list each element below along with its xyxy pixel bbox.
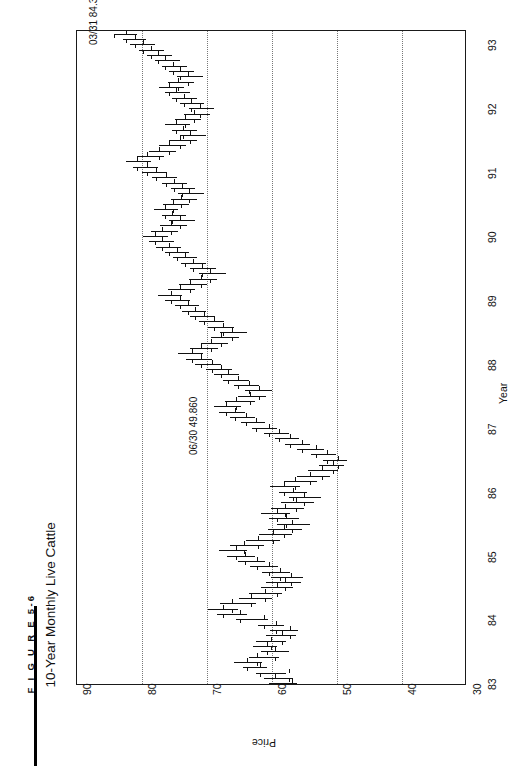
ohlc-bar xyxy=(190,348,218,349)
ohlc-open-tick xyxy=(182,184,183,188)
ohlc-open-tick xyxy=(176,120,177,124)
ohlc-close-tick xyxy=(289,678,290,682)
ohlc-open-tick xyxy=(188,301,189,305)
ohlc-close-tick xyxy=(162,236,163,240)
price-axis-label: Price xyxy=(252,737,276,749)
ohlc-close-tick xyxy=(188,82,189,86)
ohlc-close-tick xyxy=(200,114,201,118)
ohlc-bar xyxy=(175,305,200,306)
ohlc-open-tick xyxy=(251,594,252,598)
ohlc-bar xyxy=(227,556,256,557)
ohlc-bar xyxy=(189,279,218,280)
ohlc-open-tick xyxy=(226,402,227,406)
ohlc-open-tick xyxy=(180,136,181,140)
ohlc-close-tick xyxy=(178,87,179,91)
ohlc-open-tick xyxy=(204,312,205,316)
ohlc-open-tick xyxy=(189,189,190,193)
ohlc-open-tick xyxy=(135,35,136,39)
ohlc-bar xyxy=(154,209,179,210)
ohlc-open-tick xyxy=(228,370,229,374)
ohlc-bar xyxy=(165,300,190,301)
ohlc-bar xyxy=(262,572,290,573)
ohlc-close-tick xyxy=(210,279,211,283)
ohlc-close-tick xyxy=(277,518,278,522)
ohlc-bar xyxy=(178,353,203,354)
ohlc-bar xyxy=(217,614,247,615)
ohlc-bar xyxy=(199,273,226,274)
ohlc-close-tick xyxy=(204,321,205,325)
ohlc-open-tick xyxy=(143,40,144,44)
ohlc-open-tick xyxy=(232,599,233,603)
ohlc-close-tick xyxy=(158,60,159,64)
ohlc-bar xyxy=(270,630,298,631)
ohlc-open-tick xyxy=(201,344,202,348)
ohlc-bar xyxy=(250,566,278,567)
ohlc-close-tick xyxy=(151,55,152,59)
price-tick-80: 80 xyxy=(146,683,158,695)
ohlc-close-tick xyxy=(282,641,283,645)
ohlc-bar xyxy=(219,412,246,413)
ohlc-close-tick xyxy=(169,151,170,155)
ohlc-open-tick xyxy=(147,152,148,156)
ohlc-close-tick xyxy=(174,188,175,192)
ohlc-bar xyxy=(149,151,176,152)
ohlc-close-tick xyxy=(291,582,292,586)
ohlc-close-tick xyxy=(333,470,334,474)
ohlc-bar xyxy=(163,204,189,205)
ohlc-close-tick xyxy=(249,390,250,394)
ohlc-bar xyxy=(277,524,311,525)
ohlc-close-tick xyxy=(201,364,202,368)
ohlc-bar xyxy=(214,374,239,375)
ohlc-close-tick xyxy=(284,534,285,538)
ohlc-close-tick xyxy=(295,486,296,490)
ohlc-open-tick xyxy=(264,615,265,619)
ohlc-close-tick xyxy=(185,263,186,267)
gridline-price-80 xyxy=(142,31,143,684)
ohlc-close-tick xyxy=(189,199,190,203)
ohlc-bar xyxy=(261,587,293,588)
ohlc-close-tick xyxy=(147,161,148,165)
ohlc-close-tick xyxy=(257,662,258,666)
ohlc-close-tick xyxy=(169,252,170,256)
ohlc-bar xyxy=(186,359,211,360)
ohlc-close-tick xyxy=(143,50,144,54)
ohlc-bar xyxy=(264,433,289,434)
ohlc-open-tick xyxy=(183,126,184,130)
ohlc-open-tick xyxy=(271,637,272,641)
ohlc-bar xyxy=(165,124,190,125)
ohlc-open-tick xyxy=(174,179,175,183)
ohlc-close-tick xyxy=(240,619,241,623)
ohlc-open-tick xyxy=(165,56,166,60)
annotation-2: 06/30 49.860 xyxy=(188,397,199,455)
ohlc-open-tick xyxy=(257,653,258,657)
ohlc-open-tick xyxy=(165,205,166,209)
ohlc-open-tick xyxy=(259,386,260,390)
ohlc-bar xyxy=(219,550,247,551)
ohlc-open-tick xyxy=(292,679,293,683)
annotation-1: 03/31 84.300 xyxy=(88,0,99,45)
ohlc-bar xyxy=(279,492,308,493)
ohlc-close-tick xyxy=(276,630,277,634)
ohlc-open-tick xyxy=(265,589,266,593)
ohlc-close-tick xyxy=(269,433,270,437)
ohlc-close-tick xyxy=(162,247,163,251)
ohlc-open-tick xyxy=(277,583,278,587)
ohlc-close-tick xyxy=(165,215,166,219)
ohlc-open-tick xyxy=(155,232,156,236)
year-tick-93: 93 xyxy=(486,40,498,52)
ohlc-open-tick xyxy=(250,392,251,396)
ohlc-open-tick xyxy=(256,418,257,422)
ohlc-open-tick xyxy=(269,424,270,428)
year-tick-83: 83 xyxy=(486,679,498,691)
ohlc-bar xyxy=(253,646,278,647)
gridline-price-60 xyxy=(272,31,273,684)
ohlc-open-tick xyxy=(166,173,167,177)
ohlc-close-tick xyxy=(279,438,280,442)
ohlc-open-tick xyxy=(200,104,201,108)
ohlc-open-tick xyxy=(273,530,274,534)
ohlc-close-tick xyxy=(180,145,181,149)
ohlc-open-tick xyxy=(284,525,285,529)
ohlc-bar xyxy=(156,247,181,248)
ohlc-open-tick xyxy=(195,307,196,311)
ohlc-close-tick xyxy=(232,337,233,341)
